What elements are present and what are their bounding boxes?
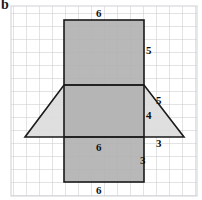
dimension-label-mid-right-height: 4 xyxy=(146,110,152,121)
dimension-label-base-run: 3 xyxy=(156,138,162,149)
vertical-rectangle-strip xyxy=(64,20,144,182)
dimension-label-slant-right: 5 xyxy=(156,95,162,106)
geometry-figure: b 6 5 5 4 3 6 3 6 xyxy=(0,0,202,200)
dimension-label-bottom-width: 6 xyxy=(96,185,102,196)
dimension-label-top-right-height: 5 xyxy=(146,45,152,56)
figure-canvas xyxy=(0,0,202,200)
dimension-label-lower-height: 3 xyxy=(140,155,146,166)
dimension-label-lower-width: 6 xyxy=(96,142,102,153)
dimension-label-top-width: 6 xyxy=(96,8,102,19)
